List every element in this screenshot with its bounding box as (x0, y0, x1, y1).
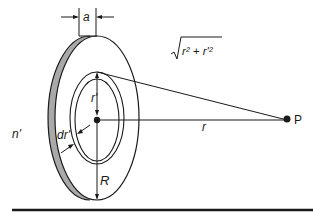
label-r-prime: r' (91, 91, 98, 105)
point-P (284, 116, 291, 123)
label-slant-distance: r² + r'² (171, 37, 222, 59)
arrowhead-icon (73, 15, 79, 19)
label-R: R (100, 173, 109, 188)
label-r: r (202, 120, 207, 134)
label-P: P (294, 113, 302, 127)
disk-diagram: a r' n' dr' R r P r² + r'² (0, 0, 313, 219)
label-n-prime: n' (12, 127, 22, 141)
label-a: a (83, 10, 90, 24)
label-dr-prime: dr' (57, 128, 71, 142)
arrowhead-icon (96, 15, 102, 19)
svg-text:r² + r'²: r² + r'² (182, 45, 214, 57)
